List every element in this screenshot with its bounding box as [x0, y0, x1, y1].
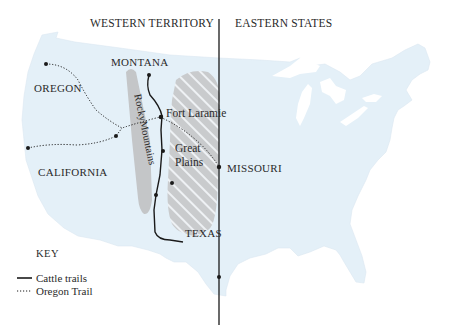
california-label: CALIFORNIA	[38, 167, 108, 178]
key-item-cattle-trails: Cattle trails	[36, 273, 87, 284]
montana-label: MONTANA	[111, 57, 168, 68]
fort-laramie-point	[159, 115, 163, 119]
cattle-trail-point	[147, 73, 151, 77]
oregon-trail-point	[114, 134, 118, 138]
missouri-point	[217, 165, 221, 169]
usa-landmass	[22, 32, 430, 296]
cattle-trail-point	[161, 149, 165, 153]
oregon-label: OREGON	[34, 83, 82, 94]
cattle-trail-point	[217, 275, 221, 279]
key-title: KEY	[36, 249, 59, 260]
missouri-label: MISSOURI	[227, 163, 282, 174]
oregon-trail-point	[44, 62, 48, 66]
fort-laramie-label: Fort Laramie	[166, 108, 226, 120]
trails-map: WESTERN TERRITORY EASTERN STATES MONTANA…	[0, 0, 471, 332]
texas-label: TEXAS	[185, 228, 222, 239]
western-territory-header: WESTERN TERRITORY	[90, 18, 214, 30]
great-plains-label-line2: Plains	[175, 157, 203, 169]
eastern-states-header: EASTERN STATES	[235, 18, 332, 30]
cattle-trail-point	[170, 181, 174, 185]
great-plains-label-line1: Great	[175, 143, 201, 155]
cattle-trail-point	[154, 193, 158, 197]
key-item-oregon-trail: Oregon Trail	[36, 286, 93, 297]
oregon-trail-point	[26, 146, 30, 150]
